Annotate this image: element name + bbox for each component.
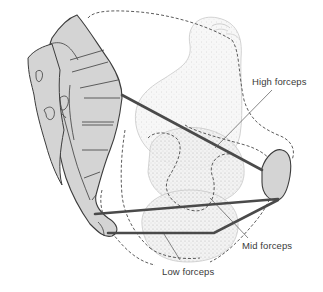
label-low-forceps: Low forceps — [162, 266, 214, 277]
label-high-forceps: High forceps — [252, 76, 307, 87]
diagram-canvas: High forceps Mid forceps Low forceps — [0, 0, 323, 292]
label-mid-forceps: Mid forceps — [242, 240, 292, 251]
pubic-symphysis — [262, 150, 291, 201]
ilium — [28, 44, 64, 185]
fetal-head-low — [142, 190, 238, 262]
